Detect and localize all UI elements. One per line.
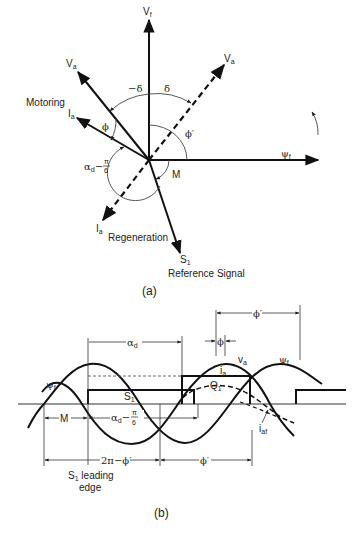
q1-label: Q1 xyxy=(210,380,222,392)
alpha-minus-pi-over-6-label: αd− π 6 xyxy=(84,158,110,174)
reference-signal-label: Reference Signal xyxy=(168,268,245,279)
motoring-label: Motoring xyxy=(26,97,65,108)
s1-leading-edge-label-line1: S1 leading xyxy=(68,470,114,482)
m-label: M xyxy=(60,413,68,424)
svg-text:6: 6 xyxy=(104,167,108,174)
va-regen-phasor xyxy=(149,65,224,160)
ia-regen-label: Ia xyxy=(96,223,103,235)
m-arc xyxy=(156,160,169,179)
delta-arc xyxy=(149,94,191,103)
delta-label: δ xyxy=(164,83,170,94)
phi-label: ϕ xyxy=(217,336,224,347)
two-pi-minus-phi-label: 2π−ϕ′ xyxy=(101,455,132,466)
panel-b-caption: (b) xyxy=(154,506,169,520)
phi-arc xyxy=(111,118,116,140)
regeneration-label: Regeneration xyxy=(108,232,168,243)
waveform-diagram: ϕ′ ϕ αd M αd− π 6 2π−ϕ′ ϕ′ v xyxy=(18,305,346,520)
minus-delta-label: −δ xyxy=(128,83,142,94)
panel-a-caption: (a) xyxy=(142,284,157,298)
iaf-label: iaf xyxy=(259,423,267,435)
phi-prime-arc xyxy=(149,125,187,160)
svg-text:π: π xyxy=(104,158,109,165)
s1-next-pulse xyxy=(296,390,346,404)
phi-prime-label: ϕ′ xyxy=(185,128,195,139)
ia-motoring-phasor xyxy=(77,118,149,160)
svg-text:6: 6 xyxy=(132,419,136,426)
figure-canvas: Vf Va Ia Va Ia ψf S1 −δ δ ϕ ϕ′ M αd− π 6… xyxy=(0,0,364,538)
s1-label: S1 xyxy=(180,254,191,266)
va-label: va xyxy=(238,354,247,366)
va-regen-label: Va xyxy=(224,53,235,65)
va-motoring-label: Va xyxy=(66,58,77,70)
m-label: M xyxy=(172,169,180,180)
phi-label: ϕ xyxy=(102,121,109,132)
phi-prime-bottom-label: ϕ′ xyxy=(200,455,210,466)
ia-regen-phasor xyxy=(103,160,149,220)
svg-text:π: π xyxy=(132,409,137,416)
phi-prime-top-label: ϕ′ xyxy=(253,308,263,319)
s1-pulse xyxy=(88,390,194,404)
phasor-diagram: Vf Va Ia Va Ia ψf S1 −δ δ ϕ ϕ′ M αd− π 6… xyxy=(26,6,318,298)
rotation-arrow-icon xyxy=(312,112,318,135)
s1-leading-edge-label-line2: edge xyxy=(79,482,102,493)
ia-motoring-label: Ia xyxy=(68,108,75,120)
psi-f-right-label: ψf xyxy=(279,354,289,366)
ia-label: ia xyxy=(220,365,226,377)
psi-f-left-label: ψf xyxy=(46,379,56,391)
svg-text:αd−: αd− xyxy=(84,161,103,173)
psi-f-label: ψf xyxy=(281,148,291,160)
iaf-pointer xyxy=(262,410,268,423)
minus-delta-arc xyxy=(110,94,149,111)
vf-label: Vf xyxy=(143,6,152,18)
